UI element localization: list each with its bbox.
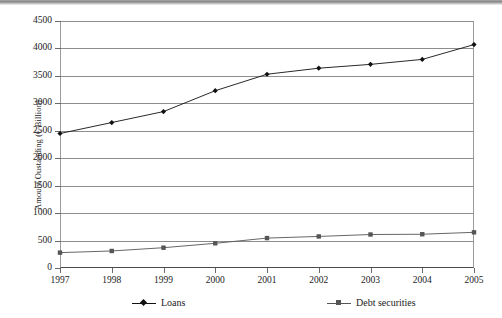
legend-label: Loans [161, 296, 185, 310]
data-point-marker [472, 230, 476, 234]
data-point-marker [420, 57, 425, 62]
data-point-marker [264, 72, 269, 77]
series-line [60, 232, 474, 252]
line-chart: Amount Oustanding (€ Billion) 0500100015… [0, 0, 502, 318]
data-point-marker [213, 88, 218, 93]
data-point-marker [161, 109, 166, 114]
data-point-marker [213, 241, 217, 245]
data-point-marker [58, 250, 62, 254]
series-loans [57, 42, 476, 136]
data-point-marker [316, 66, 321, 71]
square-marker-icon [327, 299, 351, 308]
data-point-marker [471, 42, 476, 47]
legend-item-loans[interactable]: Loans [132, 296, 185, 310]
data-point-marker [265, 236, 269, 240]
legend-label: Debt securities [356, 296, 416, 310]
data-point-marker [161, 245, 165, 249]
data-point-marker [368, 232, 372, 236]
legend-item-debt-securities[interactable]: Debt securities [327, 296, 416, 310]
series-layer [0, 0, 502, 318]
data-point-marker [110, 249, 114, 253]
data-point-marker [368, 62, 373, 67]
data-point-marker [317, 234, 321, 238]
data-point-marker [57, 131, 62, 136]
data-point-marker [109, 120, 114, 125]
chart-legend: LoansDebt securities [0, 296, 502, 312]
diamond-marker-icon [132, 299, 156, 308]
series-line [60, 45, 474, 134]
data-point-marker [420, 232, 424, 236]
series-debt-securities [58, 230, 476, 255]
